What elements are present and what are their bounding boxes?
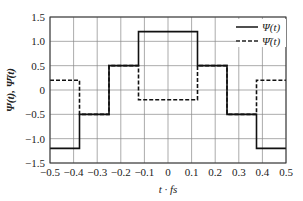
x-axis-label: t · fs (159, 183, 178, 195)
y-tick-label: 1.5 (31, 11, 45, 23)
x-tick-label: 0.5 (279, 166, 293, 178)
y-tick-label: 0 (40, 84, 46, 96)
x-tick-label: −0.1 (134, 166, 154, 178)
y-tick-label: −1.0 (25, 133, 45, 145)
x-tick-label: 0.4 (256, 166, 270, 178)
y-tick-label: 1.0 (31, 35, 45, 47)
x-tick-label: 0.3 (232, 166, 246, 178)
x-tick-label: −0.4 (64, 166, 84, 178)
chart: −0.5−0.4−0.3−0.2−0.100.10.20.30.40.5 1.5… (0, 0, 303, 201)
x-tick-labels: −0.5−0.4−0.3−0.2−0.100.10.20.30.40.5 (40, 166, 293, 178)
x-tick-label: 0 (165, 166, 171, 178)
x-tick-label: −0.3 (87, 166, 107, 178)
legend-dashed-label: Ψ̄(t) (262, 35, 280, 48)
y-tick-label: −0.5 (25, 108, 45, 120)
y-axis-label: Ψ(t), Ψ̄(t) (4, 68, 17, 112)
x-tick-label: −0.2 (111, 166, 131, 178)
y-tick-label: −1.5 (25, 157, 45, 169)
legend-solid-label: Ψ(t) (262, 21, 280, 34)
y-tick-label: 0.5 (31, 60, 45, 72)
x-tick-label: 0.2 (208, 166, 222, 178)
y-tick-labels: 1.51.00.50−0.5−1.0−1.5 (25, 11, 45, 169)
legend: Ψ(t) Ψ̄(t) (236, 19, 286, 48)
x-tick-label: 0.1 (185, 166, 199, 178)
